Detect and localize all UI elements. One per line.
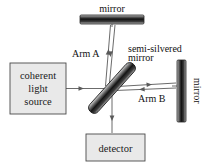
source-label-line1: coherent [20, 70, 56, 81]
right-mirror[interactable] [177, 60, 186, 122]
semi-silvered-mirror-label-line2: mirror [128, 52, 154, 63]
detector-label: detector [99, 143, 133, 154]
top-mirror-label: mirror [99, 3, 125, 14]
source-label-line3: source [24, 96, 52, 107]
interferometer-diagram: mirror mirror semi-silvered mirror Arm A… [0, 0, 203, 167]
top-mirror[interactable] [80, 15, 144, 24]
beam-arm-b-leftward [115, 87, 176, 92]
arm-a-label: Arm A [72, 48, 100, 59]
source-label-line2: light [28, 83, 47, 94]
beam-source-to-beamsplitter [66, 86, 108, 91]
right-mirror-label: mirror [192, 78, 203, 104]
arm-b-label: Arm B [138, 93, 166, 104]
top-mirror-bar [80, 15, 144, 24]
coherent-light-source[interactable]: coherent light source [10, 63, 66, 114]
detector[interactable]: detector [86, 134, 145, 161]
diagram-canvas: mirror mirror semi-silvered mirror Arm A… [0, 0, 203, 167]
right-mirror-bar [177, 60, 186, 122]
beam-arm-b-rightward [117, 82, 176, 87]
